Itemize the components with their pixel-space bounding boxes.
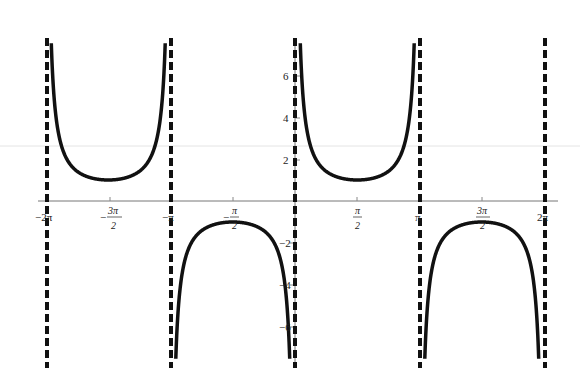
ylabel-neg2: −2: [279, 237, 291, 249]
xlabel-3pi2-num: 3π: [476, 205, 488, 216]
xlabel-neg-3pi2-sign: −: [100, 211, 106, 223]
xlabel-neg-2pi: −2π: [35, 211, 53, 223]
xlabel-pi2-num: π: [355, 205, 361, 216]
asymptotes: [47, 38, 545, 368]
ylabel-6: 6: [283, 70, 289, 82]
ylabel-neg4: −4: [279, 279, 291, 291]
ylabel-4: 4: [283, 112, 289, 124]
xlabel-neg-pi: −π: [162, 211, 174, 223]
xlabel-neg-3pi2-den: 2: [111, 220, 116, 231]
ylabel-neg6: −6: [279, 321, 291, 333]
csc-branch-2: [176, 222, 290, 359]
xlabel-pi: π: [415, 211, 421, 223]
xlabel-2pi: 2π: [537, 211, 549, 223]
csc-branch-3: [300, 43, 414, 180]
xlabel-neg-pi2-sign: −: [223, 211, 229, 223]
xlabel-neg-pi2-den: 2: [232, 220, 237, 231]
x-tick-labels: −2π −π 2π π − 3π 2 − π 2 π 2 3π 2: [35, 205, 549, 231]
xlabel-3pi2-den: 2: [480, 220, 485, 231]
xlabel-neg-3pi2-num: 3π: [107, 205, 119, 216]
csc-graph: −2π −π 2π π − 3π 2 − π 2 π 2 3π 2 6 4 2 …: [0, 0, 580, 386]
xlabel-pi2-den: 2: [355, 220, 360, 231]
csc-branch-1: [51, 43, 165, 180]
xlabel-neg-pi2-num: π: [232, 205, 238, 216]
ylabel-2: 2: [283, 154, 289, 166]
csc-branch-4: [425, 222, 539, 359]
